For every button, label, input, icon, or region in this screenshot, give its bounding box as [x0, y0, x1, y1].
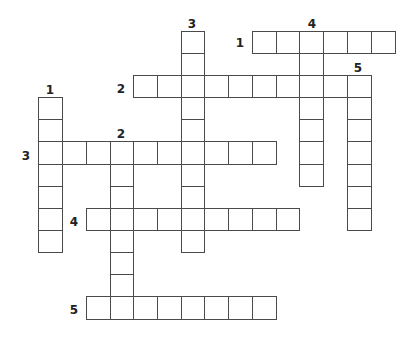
crossword-cell[interactable]	[228, 141, 253, 165]
crossword-cell[interactable]	[347, 31, 372, 54]
crossword-cell[interactable]	[204, 208, 229, 231]
crossword-cell[interactable]	[252, 141, 277, 165]
crossword-cell[interactable]	[110, 186, 134, 209]
crossword-cell[interactable]	[157, 208, 182, 231]
crossword-cell[interactable]	[347, 141, 372, 165]
clue-number-across-3: 3	[22, 150, 30, 162]
crossword-cell[interactable]	[38, 164, 63, 187]
clue-number-down-4: 4	[308, 18, 316, 30]
crossword-cell[interactable]	[347, 119, 372, 142]
crossword-cell[interactable]	[110, 208, 134, 231]
crossword-cell[interactable]	[228, 75, 253, 98]
crossword-cell[interactable]	[110, 252, 134, 275]
crossword-cell[interactable]	[347, 75, 372, 98]
crossword-cell[interactable]	[110, 274, 134, 297]
crossword-cell[interactable]	[276, 31, 300, 54]
crossword-cell[interactable]	[181, 53, 205, 76]
crossword-cell[interactable]	[347, 97, 372, 120]
clue-number-down-3: 3	[188, 18, 196, 30]
crossword-cell[interactable]	[133, 296, 158, 320]
crossword-cell[interactable]	[110, 296, 134, 320]
crossword-cell[interactable]	[110, 230, 134, 253]
clue-number-across-1: 1	[236, 37, 244, 49]
crossword-cell[interactable]	[38, 119, 63, 142]
crossword-cell[interactable]	[276, 75, 300, 98]
crossword-cell[interactable]	[110, 141, 134, 165]
clue-number-across-4: 4	[70, 216, 78, 228]
crossword-cell[interactable]	[181, 97, 205, 120]
crossword-cell[interactable]	[157, 141, 182, 165]
crossword-cell[interactable]	[252, 296, 277, 320]
crossword-cell[interactable]	[181, 186, 205, 209]
crossword-cell[interactable]	[228, 208, 253, 231]
clue-number-across-2: 2	[117, 83, 125, 95]
crossword-cell[interactable]	[204, 296, 229, 320]
crossword-cell[interactable]	[299, 53, 324, 76]
crossword-cell[interactable]	[157, 296, 182, 320]
crossword-cell[interactable]	[110, 164, 134, 187]
crossword-cell[interactable]	[276, 208, 300, 231]
clue-number-down-5: 5	[354, 62, 362, 74]
crossword-cell[interactable]	[181, 119, 205, 142]
crossword-cell[interactable]	[299, 141, 324, 165]
crossword-cell[interactable]	[181, 296, 205, 320]
crossword-cell[interactable]	[181, 230, 205, 253]
crossword-cell[interactable]	[157, 75, 182, 98]
crossword-cell[interactable]	[181, 164, 205, 187]
crossword-cell[interactable]	[299, 119, 324, 142]
crossword-cell[interactable]	[252, 75, 277, 98]
crossword-cell[interactable]	[299, 164, 324, 187]
crossword-cell[interactable]	[323, 31, 348, 54]
crossword-cell[interactable]	[371, 31, 396, 54]
crossword-cell[interactable]	[228, 296, 253, 320]
crossword-cell[interactable]	[38, 141, 63, 165]
crossword-cell[interactable]	[181, 31, 205, 54]
crossword-cell[interactable]	[38, 208, 63, 231]
crossword-cell[interactable]	[323, 75, 348, 98]
crossword-cell[interactable]	[299, 31, 324, 54]
crossword-cell[interactable]	[133, 141, 158, 165]
crossword-cell[interactable]	[133, 208, 158, 231]
crossword-cell[interactable]	[181, 208, 205, 231]
crossword-cell[interactable]	[299, 97, 324, 120]
crossword-cell[interactable]	[38, 97, 63, 120]
crossword-cell[interactable]	[252, 31, 277, 54]
crossword-cell[interactable]	[86, 141, 111, 165]
crossword-cell[interactable]	[86, 296, 111, 320]
crossword-cell[interactable]	[204, 75, 229, 98]
clue-number-across-5: 5	[70, 304, 78, 316]
crossword-cell[interactable]	[299, 75, 324, 98]
crossword-board: 1234512345	[0, 0, 418, 338]
crossword-cell[interactable]	[347, 208, 372, 231]
clue-number-down-1: 1	[46, 84, 54, 96]
crossword-cell[interactable]	[133, 75, 158, 98]
crossword-cell[interactable]	[204, 141, 229, 165]
crossword-cell[interactable]	[181, 141, 205, 165]
crossword-cell[interactable]	[62, 141, 87, 165]
crossword-cell[interactable]	[347, 186, 372, 209]
crossword-cell[interactable]	[347, 164, 372, 187]
crossword-cell[interactable]	[38, 186, 63, 209]
crossword-cell[interactable]	[86, 208, 111, 231]
crossword-cell[interactable]	[38, 230, 63, 253]
clue-number-down-2: 2	[117, 128, 125, 140]
crossword-cell[interactable]	[252, 208, 277, 231]
crossword-cell[interactable]	[181, 75, 205, 98]
